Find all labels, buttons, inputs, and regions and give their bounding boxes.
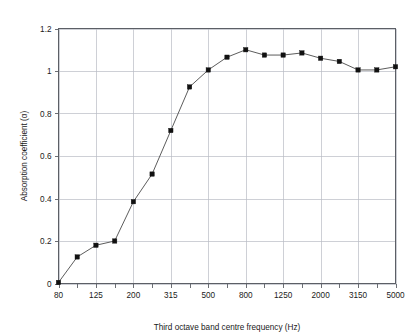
data-point-marker xyxy=(169,128,173,132)
data-point-marker xyxy=(75,255,79,259)
data-point-marker xyxy=(244,48,248,52)
data-point-marker xyxy=(356,68,360,72)
data-point-marker xyxy=(393,65,397,69)
data-point-marker xyxy=(281,53,285,57)
y-tick-label: 0.4 xyxy=(40,195,52,204)
y-tick-label: 0.2 xyxy=(40,237,52,246)
y-tick-label: 1.2 xyxy=(40,25,52,34)
y-tick-label: 1 xyxy=(47,67,52,76)
data-point-marker xyxy=(225,55,229,59)
data-point-marker xyxy=(131,199,135,203)
x-tick-label: 2000 xyxy=(312,291,331,300)
x-tick-label: 800 xyxy=(239,291,253,300)
absorption-coefficient-chart: 1.210.80.60.40.20 8012520031550080012502… xyxy=(0,0,410,336)
data-point-marker xyxy=(375,68,379,72)
y-tick-label: 0.8 xyxy=(40,110,52,119)
x-axis-title: Third octave band centre frequency (Hz) xyxy=(154,323,301,332)
x-tick-label: 315 xyxy=(164,291,178,300)
data-point-marker xyxy=(206,68,210,72)
x-tick-label: 80 xyxy=(54,291,64,300)
data-point-marker xyxy=(112,239,116,243)
data-point-marker xyxy=(94,243,98,247)
y-tick-label: 0.6 xyxy=(40,152,52,161)
data-point-marker xyxy=(300,51,304,55)
data-point-marker xyxy=(318,56,322,60)
x-tick-label: 500 xyxy=(201,291,215,300)
data-point-marker xyxy=(262,53,266,57)
x-tick-label: 3150 xyxy=(349,291,368,300)
x-tick-label: 5000 xyxy=(386,291,405,300)
chart-background xyxy=(0,0,410,336)
y-axis-title: Absorption coefficient (α) xyxy=(20,110,29,201)
x-tick-label: 125 xyxy=(89,291,103,300)
y-tick-label: 0 xyxy=(47,280,52,289)
chart-canvas: 1.210.80.60.40.20 8012520031550080012502… xyxy=(0,0,410,336)
x-tick-label: 200 xyxy=(127,291,141,300)
x-tick-label: 1250 xyxy=(274,291,293,300)
data-point-marker xyxy=(337,59,341,63)
data-point-marker xyxy=(187,85,191,89)
data-point-marker xyxy=(56,280,60,284)
data-point-marker xyxy=(150,172,154,176)
